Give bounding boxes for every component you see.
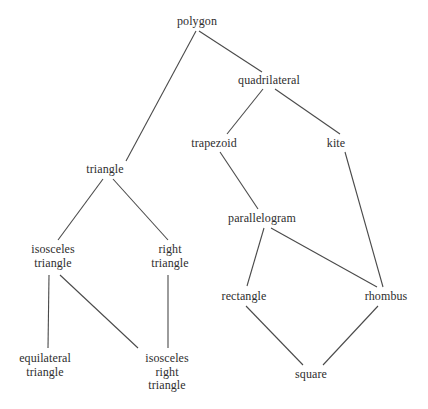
node-isosceles-right-triangle[interactable]: isosceles right triangle	[145, 352, 189, 393]
node-quadrilateral[interactable]: quadrilateral	[238, 74, 300, 88]
edge-polygon-quadrilateral	[199, 31, 262, 72]
node-triangle[interactable]: triangle	[86, 163, 123, 177]
node-square[interactable]: square	[295, 368, 327, 382]
edge-isosceles-triangle-equilateral	[48, 275, 49, 348]
edge-rectangle-square	[246, 306, 303, 365]
node-equilateral-triangle[interactable]: equilateral triangle	[19, 352, 71, 379]
edge-polygon-triangle	[126, 31, 196, 161]
node-parallelogram[interactable]: parallelogram	[228, 212, 296, 226]
edge-triangle-isosceles-triangle	[58, 179, 103, 240]
edge-layer	[0, 0, 428, 409]
edge-quadrilateral-kite	[275, 89, 340, 134]
node-trapezoid[interactable]: trapezoid	[191, 137, 237, 151]
edge-parallelogram-rectangle	[247, 228, 264, 286]
node-kite[interactable]: kite	[327, 137, 345, 151]
edge-isosceles-triangle-isosceles-right	[60, 275, 138, 348]
edge-parallelogram-rhombus	[271, 228, 377, 287]
edge-trapezoid-parallelogram	[220, 152, 258, 209]
polygon-hierarchy-diagram: polygonquadrilateraltrapezoidkitetriangl…	[0, 0, 428, 409]
edge-rhombus-square	[323, 306, 378, 365]
edge-kite-rhombus	[345, 152, 383, 287]
node-isosceles-triangle[interactable]: isosceles triangle	[31, 243, 75, 270]
edge-quadrilateral-trapezoid	[227, 89, 263, 134]
node-rectangle[interactable]: rectangle	[222, 290, 267, 304]
node-polygon[interactable]: polygon	[177, 15, 217, 29]
edge-triangle-right-triangle	[113, 179, 168, 240]
node-right-triangle[interactable]: right triangle	[151, 243, 188, 270]
node-rhombus[interactable]: rhombus	[365, 290, 408, 304]
